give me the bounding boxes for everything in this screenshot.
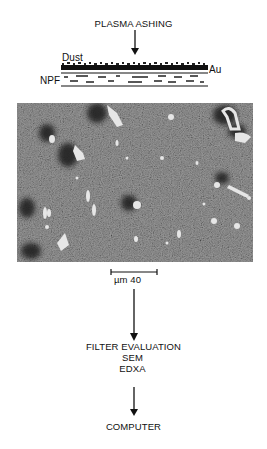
filter-cross-section — [58, 62, 212, 90]
arrow-down-icon — [130, 30, 140, 56]
computer-label: COMPUTER — [0, 422, 267, 432]
plasma-ashing-label: PLASMA ASHING — [0, 19, 267, 29]
edxa-label: EDXA — [0, 364, 266, 374]
sem-micrograph — [17, 103, 253, 262]
filter-evaluation-label: FILTER EVALUATION — [0, 342, 267, 352]
arrow-down-icon — [129, 289, 139, 342]
sem-label: SEM — [0, 353, 266, 363]
arrow-down-icon — [129, 387, 139, 417]
scale-bar-label: µm 40 — [114, 275, 141, 285]
